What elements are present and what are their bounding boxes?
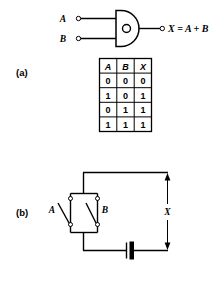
battery-short-plate-icon	[130, 242, 135, 260]
table-row: 1	[140, 105, 145, 115]
table-row: 1	[123, 105, 128, 115]
panel-a-gate-diagram	[76, 11, 164, 47]
gate-output-equation-label: X = A + B	[167, 23, 209, 34]
table-row: 1	[123, 120, 128, 130]
table-row: 0	[123, 91, 128, 101]
output-x-arrowhead-down-icon	[165, 243, 171, 251]
logic-or-gate-figure: A B X = A + B (a) A B X 0 0 0	[0, 0, 224, 288]
input-a-terminal-icon	[76, 16, 80, 20]
switch-a-label: A	[48, 205, 55, 215]
output-x-arrowhead-up-icon	[165, 173, 171, 181]
truth-table: A B X 0 0 0 1 0 1 0 1 1 1 1 1	[100, 59, 152, 132]
switch-a-bottom-contact-icon	[69, 223, 73, 227]
circuit-output-x-label: X	[163, 207, 171, 217]
or-gate-inner-circle-icon	[123, 25, 131, 33]
gate-input-b-label: B	[59, 34, 66, 44]
table-row: 0	[105, 76, 110, 86]
switch-b-label: B	[101, 205, 108, 215]
panel-b-circuit-diagram	[58, 173, 175, 260]
input-b-terminal-icon	[76, 36, 80, 40]
table-row: 1	[140, 91, 145, 101]
switch-a-blade-icon[interactable]	[58, 203, 69, 223]
output-terminal-icon	[160, 26, 164, 30]
switch-b-top-contact-icon	[96, 197, 100, 201]
switch-a-top-contact-icon	[69, 197, 73, 201]
table-row: 0	[105, 105, 110, 115]
table-row: 1	[105, 91, 110, 101]
switch-b-bottom-contact-icon	[96, 223, 100, 227]
gate-input-a-label: A	[59, 14, 66, 24]
table-row: 0	[140, 76, 145, 86]
panel-b-label: (b)	[16, 207, 28, 218]
truth-table-header-b: B	[122, 62, 129, 72]
switch-b-blade-icon[interactable]	[86, 203, 96, 223]
truth-table-header-a: A	[104, 62, 112, 72]
figure-container: A B X = A + B (a) A B X 0 0 0	[0, 0, 224, 288]
panel-a-label: (a)	[16, 67, 28, 78]
table-row: 0	[123, 76, 128, 86]
truth-table-header-x: X	[139, 62, 147, 72]
table-row: 1	[105, 120, 110, 130]
table-row: 1	[140, 120, 145, 130]
